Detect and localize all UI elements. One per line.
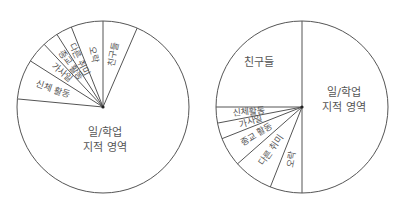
- slice-label: 지적 영역: [83, 141, 127, 154]
- slice-label: 친구들: [244, 56, 274, 69]
- pie-charts-canvas: 일/학업지적 영역친구들오락다른 취미종교 활동가사일신체 활동 일/학업지적 …: [0, 0, 405, 206]
- pie-center-dot: [300, 105, 303, 108]
- pie-chart-left: 일/학업지적 영역친구들오락다른 취미종교 활동가사일신체 활동: [17, 21, 189, 193]
- pie-center-dot: [101, 105, 104, 108]
- pie-chart-right: 일/학업지적 영역친구들신체활동가사일종교 활동다른 취미오락: [216, 21, 388, 193]
- slice-label: 일/학업: [327, 85, 361, 99]
- slice-label: 일/학업: [88, 125, 122, 139]
- chart-stage: 일/학업지적 영역친구들오락다른 취미종교 활동가사일신체 활동 일/학업지적 …: [0, 0, 405, 206]
- slice-label: 지적 영역: [322, 101, 366, 114]
